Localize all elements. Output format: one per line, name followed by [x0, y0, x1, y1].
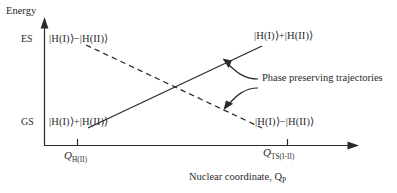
state-label-bottom-left: |H(I)⟩+|H(II)⟩: [49, 117, 108, 128]
level-label-es: ES: [21, 34, 33, 44]
level-label-gs: GS: [21, 117, 34, 127]
x-tick-left-subscript: H(II): [72, 156, 87, 164]
x-tick-right-subscript: TS(I-II): [271, 153, 295, 161]
y-axis-title: Energy: [6, 6, 36, 17]
x-tick-label-left: QH(II): [64, 150, 87, 164]
x-axis-title-subscript: P: [282, 176, 286, 185]
annotation-label: Phase preserving trajectories: [262, 73, 383, 84]
x-axis: [45, 141, 360, 149]
state-label-top-left: |H(I)⟩−|H(II)⟩: [49, 34, 108, 45]
y-axis: [41, 17, 49, 146]
x-tick-right-symbol: Q: [263, 146, 271, 158]
diagram-canvas: [0, 0, 397, 193]
state-label-top-right: |H(I)⟩+|H(II)⟩: [254, 31, 313, 42]
energy-diagram-figure: Energy ES GS |H(I)⟩−|H(II)⟩ |H(I)⟩+|H(II…: [0, 0, 397, 193]
annotation-arrow-lower: [224, 88, 259, 110]
x-axis-title: Nuclear coordinate, QP: [189, 172, 286, 185]
annotation-arrow-upper: [223, 59, 259, 80]
x-axis-title-main: Nuclear coordinate, Q: [189, 171, 282, 182]
curve-dashed-falling: [86, 45, 262, 128]
x-tick-label-right: QTS(I-II): [263, 147, 295, 161]
state-label-bottom-right: |H(I)⟩−|H(II)⟩: [255, 117, 314, 128]
x-tick-left-symbol: Q: [64, 149, 72, 161]
